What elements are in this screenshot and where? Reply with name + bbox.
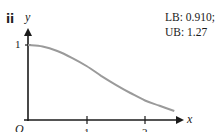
origin-label: O — [15, 122, 24, 132]
y-tick-label-1: 1 — [15, 38, 21, 50]
x-axis-label: x — [187, 112, 192, 127]
function-curve — [28, 45, 174, 111]
y-axis-label: y — [25, 10, 30, 25]
x-tick-label-1: 1 — [84, 126, 90, 132]
x-tick-label-2: 2 — [142, 126, 148, 132]
